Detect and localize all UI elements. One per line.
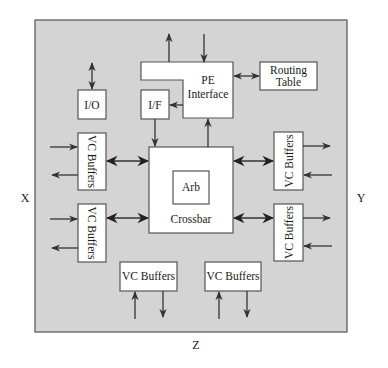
vc-right-bottom-label: VC Buffers — [283, 205, 295, 259]
pe-interface-label-1: PE — [201, 74, 214, 86]
vc-bottom-left-label: VC Buffers — [122, 270, 176, 282]
vc-right-top-label: VC Buffers — [283, 134, 295, 188]
pe-interface-label-2: Interface — [188, 88, 229, 100]
io-label: I/O — [84, 99, 99, 111]
crossbar-label: Crossbar — [171, 213, 212, 225]
if-label: I/F — [148, 99, 161, 111]
axis-x-label: X — [21, 191, 30, 205]
axis-z-label: Z — [192, 338, 199, 352]
arb-label: Arb — [182, 181, 200, 193]
routing-table-label-2: Table — [276, 76, 301, 88]
vc-left-top-label: VC Buffers — [86, 135, 98, 189]
vc-bottom-right-label: VC Buffers — [206, 270, 260, 282]
vc-left-bottom-label: VC Buffers — [86, 206, 98, 260]
axis-y-label: Y — [357, 191, 366, 205]
router-diagram: PE Interface Routing Table I/O I/F Arb C… — [0, 0, 388, 368]
